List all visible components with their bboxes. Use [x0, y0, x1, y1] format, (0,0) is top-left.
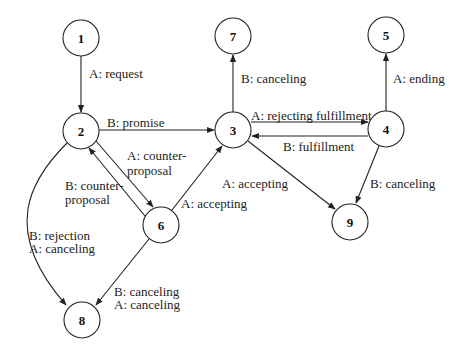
node-7: 7 — [215, 18, 251, 54]
label-a-counter-proposal-2: proposal — [127, 163, 172, 178]
label-accepting-3-9: A: accepting — [222, 176, 289, 191]
svg-text:5: 5 — [383, 28, 390, 43]
label-a-canceling-6-8: A: canceling — [114, 297, 181, 312]
label-b-canceling-4-9: B: canceling — [370, 176, 436, 191]
svg-text:2: 2 — [78, 124, 85, 139]
svg-text:7: 7 — [230, 29, 237, 44]
label-canceling-2-8: A: canceling — [29, 241, 96, 256]
svg-text:4: 4 — [383, 122, 390, 137]
node-3: 3 — [215, 112, 251, 148]
svg-text:8: 8 — [79, 313, 86, 328]
state-diagram: A: request B: promise A: counter- propos… — [0, 0, 454, 349]
node-5: 5 — [368, 17, 404, 53]
node-9: 9 — [332, 204, 368, 240]
label-fulfillment: B: fulfillment — [283, 139, 355, 154]
edge-labels: A: request B: promise A: counter- propos… — [29, 66, 445, 312]
label-request: A: request — [89, 66, 143, 81]
svg-text:3: 3 — [230, 123, 237, 138]
node-6: 6 — [143, 207, 179, 243]
edge-2-to-8 — [27, 143, 67, 305]
svg-text:6: 6 — [158, 218, 165, 233]
node-1: 1 — [63, 20, 99, 56]
label-a-counter-proposal-1: A: counter- — [127, 148, 186, 163]
node-2: 2 — [63, 113, 99, 149]
svg-text:9: 9 — [347, 215, 354, 230]
node-4: 4 — [368, 111, 404, 147]
edge-4-to-9 — [356, 146, 379, 203]
label-b-counter-proposal-1: B: counter- — [65, 178, 124, 193]
label-promise: B: promise — [107, 115, 165, 130]
label-b-counter-proposal-2: proposal — [65, 192, 110, 207]
label-rejecting-fulfillment: A: rejecting fulfillment — [251, 108, 372, 123]
label-accepting-6-3: A: accepting — [181, 196, 248, 211]
svg-text:1: 1 — [78, 31, 85, 46]
label-ending: A: ending — [393, 71, 445, 86]
label-b-canceling-3-7: B: canceling — [241, 71, 307, 86]
node-8: 8 — [64, 302, 100, 338]
